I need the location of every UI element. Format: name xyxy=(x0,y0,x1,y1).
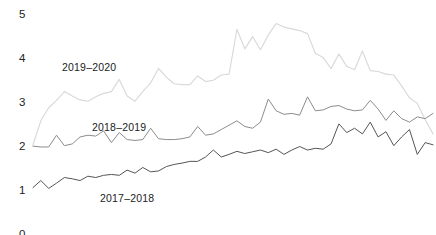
line-chart: 5 4 3 2 1 0 2019–2020 2018–2019 2017–201… xyxy=(0,0,436,235)
series-label-2018-2019: 2018–2019 xyxy=(92,122,146,133)
y-axis-tick-5: 5 xyxy=(19,9,26,21)
chart-plot-area xyxy=(0,0,436,235)
series-label-2019-2020: 2019–2020 xyxy=(62,62,116,73)
y-axis-tick-1: 1 xyxy=(19,185,26,197)
y-axis-tick-3: 3 xyxy=(19,97,26,109)
y-axis-tick-4: 4 xyxy=(19,53,26,65)
y-axis-tick-2: 2 xyxy=(19,141,26,153)
series-paths xyxy=(33,24,433,189)
y-axis-tick-0: 0 xyxy=(19,229,26,235)
series-label-2017-2018: 2017–2018 xyxy=(100,193,154,204)
